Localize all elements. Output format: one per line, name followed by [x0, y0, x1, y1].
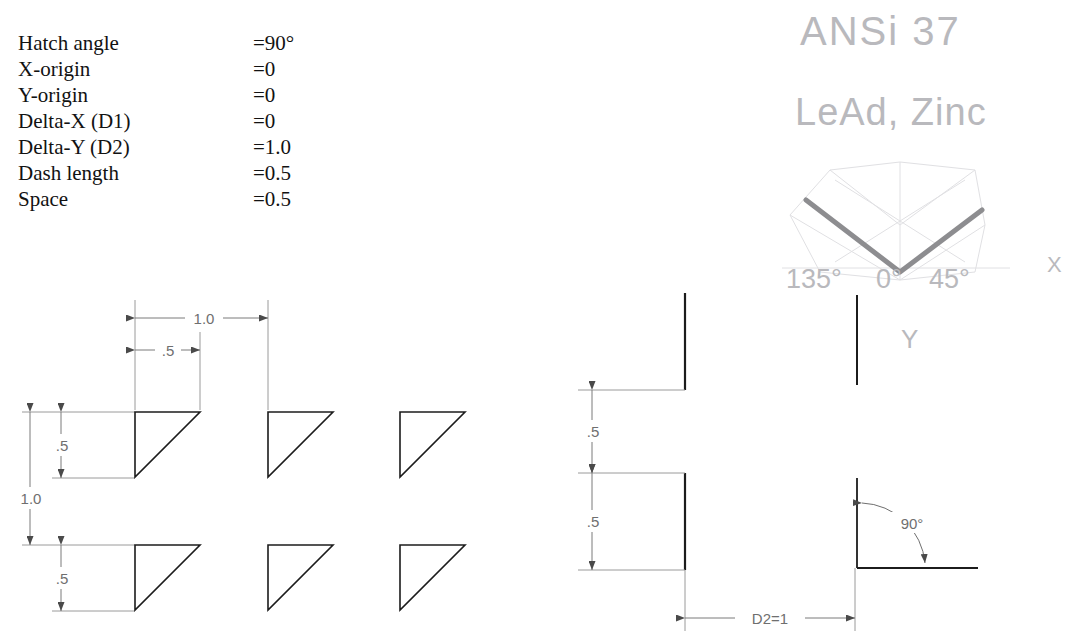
parameter-value: =0.5 — [253, 160, 291, 186]
parameter-row: Dash length =0.5 — [18, 160, 358, 186]
pattern-triangle — [268, 545, 333, 610]
extension-lines-left — [22, 412, 135, 611]
dim-d2-label: D2=1 — [752, 610, 788, 627]
handwriting-line-1: ANSi 37 — [800, 9, 961, 53]
parameter-value: =1.0 — [253, 134, 291, 160]
dim-space-length: .5 — [577, 473, 605, 570]
sketch-construction-lines — [782, 162, 1010, 280]
handwritten-annotations: ANSi 37 LeAd, Zinc 135° 0° 45° X Y — [782, 9, 1062, 385]
parameter-value: =0 — [253, 82, 275, 108]
figure-page: Hatch angle =90° X-origin =0 Y-origin =0… — [0, 0, 1084, 631]
dim-dash-length: .5 — [577, 390, 605, 473]
dim-dash-label: .5 — [587, 423, 600, 440]
dash-space-diagram: .5 .5 D2=1 — [577, 293, 855, 631]
parameter-row: X-origin =0 — [18, 56, 358, 82]
parameter-label: Space — [18, 186, 68, 212]
parameter-label: Hatch angle — [18, 30, 119, 56]
pattern-triangle — [268, 412, 333, 477]
pattern-triangle — [400, 412, 465, 477]
pattern-triangle — [400, 545, 465, 610]
parameter-row: Delta-Y (D2) =1.0 — [18, 134, 358, 160]
pattern-grid-diagram: 1.0 .5 1.0 — [11, 300, 465, 611]
dim-space-label: .5 — [587, 513, 600, 530]
handwriting-angle-left: 135° — [786, 264, 842, 294]
dim-left-full-label: 1.0 — [21, 490, 42, 507]
sketch-chevron — [806, 200, 982, 272]
extension-lines-top — [135, 300, 268, 410]
pattern-triangle — [135, 412, 200, 477]
parameter-value: =90° — [253, 30, 294, 56]
parameter-value: =0.5 — [253, 186, 291, 212]
dash-extension-lines — [578, 390, 855, 631]
dim-d2: D2=1 — [685, 608, 855, 628]
angle-corner-lines — [857, 478, 978, 568]
handwriting-line-2: LeAd, Zinc — [795, 91, 987, 133]
handwriting-axis-y: Y — [901, 324, 918, 354]
handwriting-axis-x: X — [1047, 252, 1062, 277]
parameter-label: Y-origin — [18, 82, 88, 108]
dim-left-full: 1.0 — [11, 412, 51, 545]
pattern-triangle — [135, 545, 200, 610]
parameter-row: Hatch angle =90° — [18, 30, 358, 56]
handwriting-angle-right: 45° — [929, 264, 970, 294]
dim-left-lower: .5 — [46, 545, 74, 611]
parameter-row: Delta-X (D1) =0 — [18, 108, 358, 134]
parameter-value: =0 — [253, 108, 275, 134]
parameter-label: Delta-X (D1) — [18, 108, 131, 134]
dim-top-half: .5 — [135, 340, 200, 360]
parameter-label: X-origin — [18, 56, 90, 82]
parameter-label: Delta-Y (D2) — [18, 134, 130, 160]
dim-left-upper: .5 — [46, 412, 74, 478]
angle-arc — [862, 503, 925, 563]
angle-diagram: 90° — [857, 478, 978, 568]
dim-left-upper-label: .5 — [56, 437, 69, 454]
triangle-group — [135, 412, 465, 610]
hatch-parameter-list: Hatch angle =90° X-origin =0 Y-origin =0… — [18, 30, 358, 212]
parameter-row: Y-origin =0 — [18, 82, 358, 108]
parameter-row: Space =0.5 — [18, 186, 358, 212]
handwriting-angle-center: 0° — [876, 264, 902, 294]
dim-top-full-label: 1.0 — [194, 310, 215, 327]
parameter-value: =0 — [253, 56, 275, 82]
dim-top-half-label: .5 — [162, 342, 175, 359]
dim-left-lower-label: .5 — [56, 570, 69, 587]
angle-label: 90° — [901, 515, 924, 532]
parameter-label: Dash length — [18, 160, 119, 186]
dim-top-full: 1.0 — [135, 308, 268, 328]
